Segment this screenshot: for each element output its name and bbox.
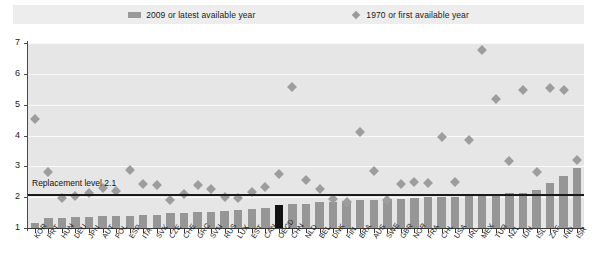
replacement-level-line <box>28 194 584 196</box>
legend-item-bar[interactable]: 2009 or latest available year <box>128 10 255 20</box>
y-axis-tick <box>24 43 28 44</box>
bar-ISR[interactable] <box>573 168 581 228</box>
bar-ZAF[interactable] <box>546 183 554 228</box>
replacement-level-label: Replacement level 2.1 <box>32 178 116 188</box>
chart-legend: 2009 or latest available year 1970 or fi… <box>13 5 584 24</box>
diamond-marker-icon <box>352 10 360 18</box>
y-axis-tick <box>24 74 28 75</box>
y-axis-tick-label: 3 <box>0 160 20 170</box>
y-axis-tick <box>24 197 28 198</box>
y-axis-tick <box>24 105 28 106</box>
diamond-CZE[interactable] <box>165 195 175 205</box>
bar-CHL[interactable] <box>437 197 445 228</box>
bar-NZL[interactable] <box>505 193 513 228</box>
diamond-NZL[interactable] <box>504 156 514 166</box>
diamond-ITA[interactable] <box>138 179 148 189</box>
gridline <box>28 197 584 198</box>
diamond-BEL[interactable] <box>315 185 325 195</box>
diamond-IDN[interactable] <box>518 85 528 95</box>
legend-item-diamond[interactable]: 1970 or first available year <box>353 10 469 20</box>
fertility-rate-chart: 2009 or latest available year 1970 or fi… <box>0 0 597 256</box>
bar-IDN[interactable] <box>519 193 527 228</box>
y-axis-tick-label: 5 <box>0 99 20 109</box>
gridline <box>28 74 584 75</box>
y-axis-tick <box>24 166 28 167</box>
gridline <box>28 136 584 137</box>
legend-label-bar: 2009 or latest available year <box>146 10 255 20</box>
gridline <box>28 43 584 44</box>
diamond-SVN[interactable] <box>206 185 216 195</box>
bar-TUR[interactable] <box>492 194 500 228</box>
diamond-IND[interactable] <box>559 85 569 95</box>
diamond-CHN[interactable] <box>287 82 297 92</box>
bar-AUS[interactable] <box>370 200 378 228</box>
diamond-DEU[interactable] <box>71 191 81 201</box>
diamond-OECD[interactable] <box>274 169 284 179</box>
diamond-NLD[interactable] <box>301 175 311 185</box>
y-axis-tick-label: 4 <box>0 130 20 140</box>
gridline <box>28 166 584 167</box>
y-axis-tick-label: 1 <box>0 222 20 232</box>
bar-BEL[interactable] <box>315 202 323 228</box>
diamond-GBR[interactable] <box>396 179 406 189</box>
diamond-USA[interactable] <box>450 177 460 187</box>
diamond-GRC[interactable] <box>193 180 203 190</box>
y-axis-tick <box>24 136 28 137</box>
diamond-MEX[interactable] <box>477 45 487 55</box>
bar-MEX[interactable] <box>478 195 486 228</box>
diamond-ISL[interactable] <box>532 167 542 177</box>
diamond-NOR[interactable] <box>410 177 420 187</box>
diamond-CAN[interactable] <box>260 182 270 192</box>
plot-area <box>28 43 584 228</box>
diamond-TUR[interactable] <box>491 94 501 104</box>
legend-label-diamond: 1970 or first available year <box>366 10 469 20</box>
bar-IND[interactable] <box>559 176 567 228</box>
diamond-KOR[interactable] <box>30 114 40 124</box>
diamond-CHL[interactable] <box>437 132 447 142</box>
bar-IRL[interactable] <box>465 195 473 228</box>
diamond-EST[interactable] <box>247 187 257 197</box>
bar-ISL[interactable] <box>532 190 540 228</box>
bar-FRA[interactable] <box>424 197 432 228</box>
gridline <box>28 105 584 106</box>
bar-USA[interactable] <box>451 197 459 228</box>
diamond-PRT[interactable] <box>43 167 53 177</box>
y-axis-tick-label: 6 <box>0 68 20 78</box>
bar-swatch-icon <box>128 12 141 18</box>
diamond-ZAF[interactable] <box>545 83 555 93</box>
y-axis-tick-label: 7 <box>0 37 20 47</box>
diamond-ISR[interactable] <box>572 155 582 165</box>
diamond-FRA[interactable] <box>423 178 433 188</box>
diamond-SVK[interactable] <box>152 180 162 190</box>
y-axis-tick-label: 2 <box>0 191 20 201</box>
